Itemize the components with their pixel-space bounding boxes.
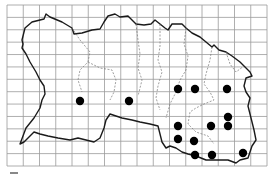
record-dot (191, 85, 199, 93)
record-dot (208, 151, 216, 159)
record-dots (76, 85, 247, 159)
distribution-map (0, 0, 272, 181)
record-dot (239, 149, 247, 157)
record-dot (174, 85, 182, 93)
record-dot (76, 97, 84, 105)
record-dot (223, 85, 231, 93)
record-dot (190, 137, 198, 145)
record-dot (224, 113, 232, 121)
record-dot (174, 135, 182, 143)
record-dot (125, 97, 133, 105)
scale-mark (10, 172, 18, 174)
record-dot (207, 122, 215, 130)
record-dot (174, 122, 182, 130)
record-dot (224, 122, 232, 130)
record-dot (191, 151, 199, 159)
